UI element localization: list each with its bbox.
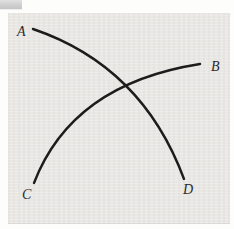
label-endpoint-a: A xyxy=(16,24,26,39)
figure-page: A B C D xyxy=(0,0,234,229)
curve-c-to-b xyxy=(34,64,200,183)
label-endpoint-c: C xyxy=(22,187,32,202)
crossing-curves-diagram: A B C D xyxy=(0,0,234,229)
curve-a-to-d xyxy=(33,29,184,179)
label-endpoint-d: D xyxy=(182,182,193,197)
label-endpoint-b: B xyxy=(211,59,220,74)
